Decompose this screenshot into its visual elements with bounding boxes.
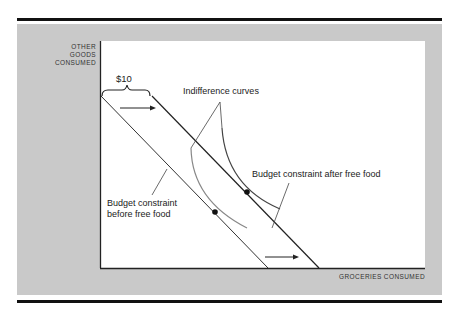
budget-before-label-line: before free food [107,209,177,220]
tangency-point-before [212,209,218,215]
brace-label: $10 [116,73,132,84]
budget-before-label-line: Budget constraint [107,198,177,209]
tangency-point-after [244,189,250,195]
indifference-curves-label: Indifference curves [183,86,259,96]
x-axis-label: GROCERIES CONSUMED [300,273,425,281]
y-axis-label: OTHER GOODS CONSUMED [46,43,96,67]
y-axis-label-line: GOODS [46,51,96,59]
budget-before-label: Budget constraint before free food [107,198,177,220]
y-axis-label-line: OTHER [46,43,96,51]
budget-after-label: Budget constraint after free food [252,169,381,179]
y-axis-label-line: CONSUMED [46,59,96,67]
plot-area [100,41,425,268]
